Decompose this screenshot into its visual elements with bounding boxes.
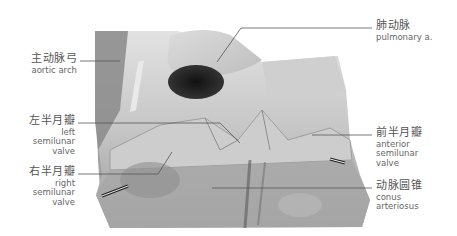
label-en: conus arteriosus — [376, 193, 422, 213]
label-left-semilunar-valve: 左半月瓣 left semilunar valve — [29, 115, 75, 157]
label-zh: 肺动脉 — [376, 20, 432, 33]
label-zh: 左半月瓣 — [29, 115, 75, 128]
anatomy-figure: 主动脉弓 aortic arch 肺动脉 pulmonary a. 左半月瓣 l… — [0, 0, 457, 236]
label-en: left semilunar valve — [29, 128, 75, 157]
label-right-semilunar-valve: 右半月瓣 right semilunar valve — [29, 166, 75, 208]
label-en: pulmonary a. — [376, 33, 432, 43]
label-en: aortic arch — [31, 66, 77, 76]
label-zh: 前半月瓣 — [376, 127, 422, 140]
label-aortic-arch: 主动脉弓 aortic arch — [31, 53, 77, 75]
label-zh: 右半月瓣 — [29, 166, 75, 179]
label-en: right semilunar valve — [29, 179, 75, 208]
label-en: anterior semilunar valve — [376, 140, 422, 169]
label-conus-arteriosus: 动脉圆锥 conus arteriosus — [376, 180, 422, 212]
label-zh: 动脉圆锥 — [376, 180, 422, 193]
label-pulmonary-a: 肺动脉 pulmonary a. — [376, 20, 432, 42]
lumen — [168, 65, 224, 99]
label-zh: 主动脉弓 — [31, 53, 77, 66]
label-anterior-semilunar-valve: 前半月瓣 anterior semilunar valve — [376, 127, 422, 169]
